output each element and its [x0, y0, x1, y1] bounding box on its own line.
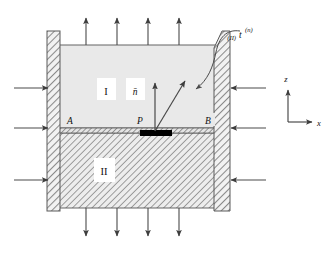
top-load-arrows — [86, 18, 179, 45]
point-p-label: P — [136, 116, 143, 126]
normal-vector-label: n̄ — [133, 87, 138, 97]
right-load-arrows — [231, 88, 266, 180]
traction-label-main: t — [239, 30, 242, 40]
surface-element-block — [140, 130, 172, 136]
region-two-label: II — [101, 166, 108, 177]
coordinate-axes — [288, 90, 312, 122]
region-two-label-group: II — [94, 158, 115, 182]
right-rigid-wall — [214, 31, 230, 211]
figure-root: I n̄ II A P B (II) t (n) — [0, 0, 333, 254]
traction-label-prefix: (II) — [227, 34, 236, 42]
point-a-label: A — [66, 116, 73, 126]
point-label-p-group: P — [134, 113, 147, 126]
region-one-label: I — [104, 86, 108, 97]
region-one-label-group: I — [97, 78, 116, 100]
traction-vector-label-group: (II) t (n) — [227, 26, 252, 42]
interface-band — [57, 128, 218, 133]
point-b-label: B — [205, 116, 211, 126]
mechanics-diagram: I n̄ II A P B (II) t (n) — [0, 0, 333, 254]
region-two-body — [57, 133, 218, 208]
traction-label-superscript: (n) — [245, 26, 253, 34]
bottom-load-arrows — [86, 208, 179, 236]
z-axis-label: z — [283, 74, 288, 84]
left-load-arrows — [14, 88, 48, 180]
point-label-a-group: A — [64, 113, 77, 126]
left-rigid-wall — [47, 31, 60, 211]
normal-label-group: n̄ — [126, 78, 145, 100]
x-axis-label: x — [316, 118, 321, 128]
point-label-b-group: B — [202, 113, 215, 126]
